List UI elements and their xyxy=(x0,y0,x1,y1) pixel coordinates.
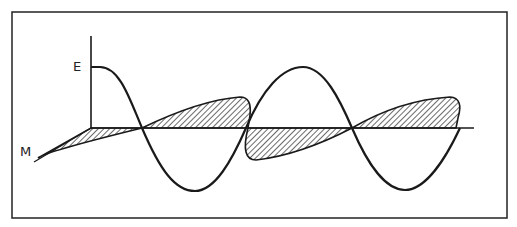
m-axis xyxy=(34,128,91,162)
diagram-canvas xyxy=(0,0,517,227)
magnetic-label: M xyxy=(20,144,31,159)
electric-label: E xyxy=(73,59,81,74)
em-wave-diagram: E M xyxy=(0,0,517,227)
